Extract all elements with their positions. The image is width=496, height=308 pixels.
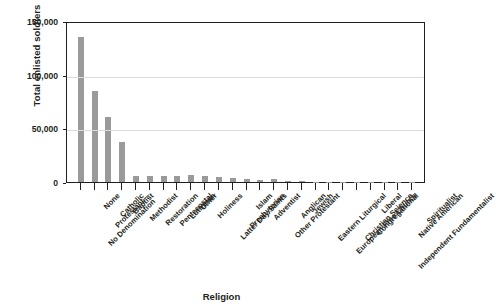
x-tick-label: Spiritualist	[426, 192, 460, 226]
x-tick-label: None	[102, 192, 121, 211]
x-axis-title: Religion	[0, 291, 443, 302]
x-tick-label: Holiness	[216, 192, 244, 220]
